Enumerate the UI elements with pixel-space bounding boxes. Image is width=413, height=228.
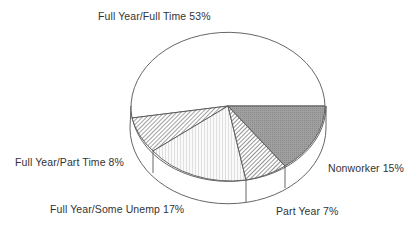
slice-full-year-full-time [131,32,325,118]
label-part-year: Part Year 7% [276,205,339,217]
label-full-year-part-time: Full Year/Part Time 8% [15,156,124,168]
pie-chart [0,0,413,228]
label-full-year-some-unemp: Full Year/Some Unemp 17% [50,203,184,215]
label-full-year-full-time: Full Year/Full Time 53% [98,10,211,22]
label-nonworker: Nonworker 15% [328,162,404,174]
pie-top-face [131,32,325,181]
